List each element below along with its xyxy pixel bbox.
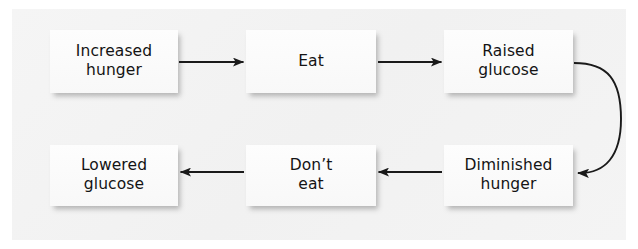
node-dont-eat: Don’t eat [246,145,376,206]
node-label-raised-glucose: Raised glucose [478,42,538,80]
flowchart-diagram: Increased hunger Eat Raised glucose Dimi… [0,0,638,249]
node-raised-glucose: Raised glucose [444,30,573,93]
node-label-dont-eat: Don’t eat [290,156,333,194]
node-label-increased-hunger: Increased hunger [76,42,152,80]
node-lowered-glucose: Lowered glucose [50,145,178,206]
node-label-eat: Eat [298,52,324,71]
node-label-diminished-hunger: Diminished hunger [464,156,552,194]
node-diminished-hunger: Diminished hunger [444,145,573,206]
node-label-lowered-glucose: Lowered glucose [81,156,147,194]
node-eat: Eat [246,30,376,93]
node-increased-hunger: Increased hunger [50,30,178,93]
